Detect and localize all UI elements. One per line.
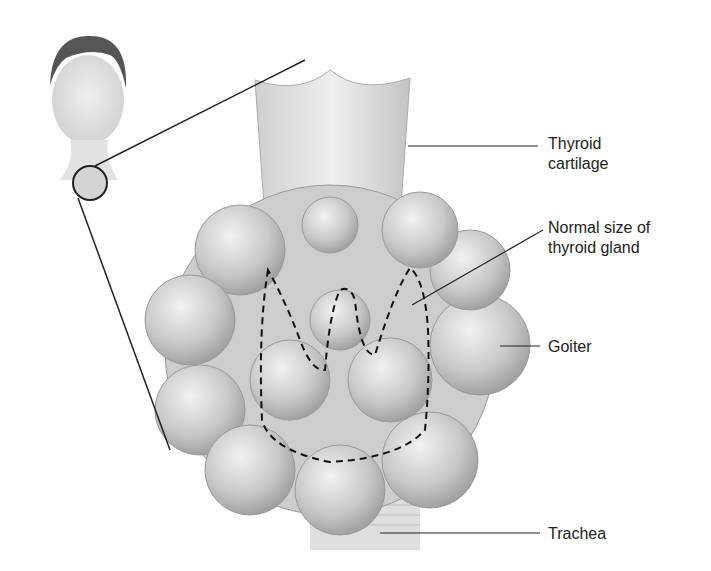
label-trachea: Trachea xyxy=(548,524,606,544)
goiter-mass xyxy=(145,185,530,535)
label-line: Thyroid xyxy=(548,134,608,154)
head-inset xyxy=(50,36,126,200)
label-thyroid-cartilage: Thyroid cartilage xyxy=(548,134,608,174)
label-line: cartilage xyxy=(548,154,608,174)
label-goiter: Goiter xyxy=(548,337,592,357)
label-line: Normal size of xyxy=(548,218,650,238)
label-normal-size: Normal size of thyroid gland xyxy=(548,218,650,258)
label-line: thyroid gland xyxy=(548,238,650,258)
magnifier-circle xyxy=(73,166,107,200)
goiter-illustration xyxy=(0,0,711,571)
